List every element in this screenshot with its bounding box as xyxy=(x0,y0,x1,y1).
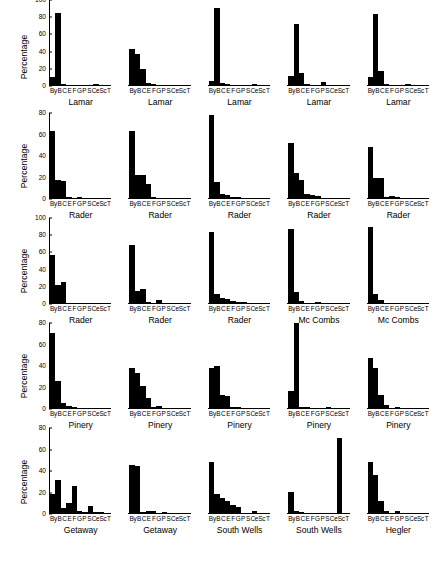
chart-panel: ByBCEFGPSCeScTPinery xyxy=(113,323,192,428)
x-tick-label: Ce xyxy=(330,86,338,95)
axis-area xyxy=(272,218,349,304)
chart-panel: ByBCEFGPSCeScTMc Combs xyxy=(352,218,431,323)
bar xyxy=(315,302,320,303)
bar xyxy=(252,84,257,85)
panel-site-label: Getaway xyxy=(129,525,190,536)
y-tick-label: 40 xyxy=(39,266,46,273)
axis-area xyxy=(272,323,349,409)
bar xyxy=(66,197,71,198)
bar xyxy=(337,438,342,513)
x-tick-label: T xyxy=(186,86,191,95)
x-tick-label: By xyxy=(209,86,216,95)
chart-panel: 020406080ByBCEFGPSCeScTPinery xyxy=(34,323,113,428)
chart-row: Percentage020406080ByBCEFGPSCeScTGetaway… xyxy=(0,428,431,536)
bar xyxy=(288,492,293,513)
chart-panel: ByBCEFGPSCeScTSouth Wells xyxy=(272,428,351,536)
x-tick-label: T xyxy=(424,86,429,95)
chart-panel: ByBCEFGPSCeScTHegler xyxy=(352,428,431,536)
bar xyxy=(72,407,77,408)
axis-area xyxy=(193,113,270,199)
x-tick-label: Sc xyxy=(338,514,345,523)
y-axis-label: Percentage xyxy=(19,34,29,78)
y-tick-label: 0 xyxy=(42,301,46,308)
panel-site-label: Lamar xyxy=(368,97,429,108)
bar-group xyxy=(368,0,427,85)
bar xyxy=(77,197,82,198)
x-tick-label: T xyxy=(345,304,350,313)
x-tick-labels: ByBCEFGPSCeScT xyxy=(288,409,349,420)
y-axis-label: Percentage xyxy=(19,460,29,504)
x-tick-labels: ByBCEFGPSCeScT xyxy=(129,86,190,97)
axis-area xyxy=(352,0,429,86)
chart-panel: ByBCEFGPSCeScTRader xyxy=(113,113,192,218)
chart-panel: 020406080ByBCEFGPSCeScTGetaway xyxy=(34,428,113,536)
y-tick-labels: 020406080 xyxy=(34,428,49,514)
x-tick-label: T xyxy=(345,514,350,523)
x-tick-label: Sc xyxy=(338,86,345,95)
x-tick-label: Sc xyxy=(417,86,424,95)
panel-site-label: South Wells xyxy=(209,525,270,536)
chart-row: Percentage020406080100ByBCEFGPSCeScTRade… xyxy=(0,218,431,323)
plot-area xyxy=(352,218,431,304)
x-tick-label: By xyxy=(129,86,136,95)
x-tick-label: Ce xyxy=(330,304,338,313)
x-tick-label: Sc xyxy=(258,514,265,523)
axis-area xyxy=(113,113,190,199)
x-tick-labels: ByBCEFGPSCeScT xyxy=(50,409,111,420)
axis-area: 020406080 xyxy=(34,113,111,199)
bar-group xyxy=(209,0,268,85)
chart-row: Percentage020406080ByBCEFGPSCeScTRaderBy… xyxy=(0,113,431,218)
bar xyxy=(299,301,304,303)
x-tick-labels: ByBCEFGPSCeScT xyxy=(129,514,190,525)
chart-row: Percentage020406080ByBCEFGPSCeScTPineryB… xyxy=(0,323,431,428)
plot-area xyxy=(352,0,431,86)
chart-panel: ByBCEFGPSCeScTLamar xyxy=(352,0,431,113)
x-tick-labels: ByBCEFGPSCeScT xyxy=(368,514,429,525)
axis-area: 020406080100 xyxy=(34,218,111,304)
panel-site-label: Lamar xyxy=(288,97,349,108)
bar xyxy=(384,511,389,513)
bar-group xyxy=(50,428,109,513)
plot-area xyxy=(193,0,272,86)
y-tick-label: 20 xyxy=(39,66,46,73)
x-tick-label: By xyxy=(50,409,57,418)
x-tick-label: Sc xyxy=(338,409,345,418)
x-tick-label: Ce xyxy=(330,409,338,418)
x-tick-label: T xyxy=(265,304,270,313)
x-tick-labels: ByBCEFGPSCeScT xyxy=(288,199,349,210)
x-tick-labels: ByBCEFGPSCeScT xyxy=(50,304,111,315)
plot-area: 020406080 xyxy=(34,428,113,514)
x-tick-label: T xyxy=(424,199,429,208)
axis-area xyxy=(352,428,429,514)
bar-group xyxy=(129,0,188,85)
axis-area xyxy=(113,323,190,409)
bar xyxy=(304,407,309,408)
panel-site-label: Lamar xyxy=(209,97,270,108)
bar-group xyxy=(129,428,188,513)
plot-area xyxy=(352,428,431,514)
plot-area xyxy=(193,113,272,199)
x-tick-label: By xyxy=(368,86,375,95)
plot-area: 020406080100 xyxy=(34,0,113,86)
plot-area xyxy=(193,428,272,514)
x-tick-labels: ByBCEFGPSCeScT xyxy=(129,409,190,420)
axis-area xyxy=(193,218,270,304)
x-tick-label: Ce xyxy=(409,304,417,313)
x-tick-label: Sc xyxy=(99,199,106,208)
x-tick-label: Sc xyxy=(99,409,106,418)
x-tick-label: By xyxy=(209,199,216,208)
x-tick-labels: ByBCEFGPSCeScT xyxy=(209,514,270,525)
y-tick-labels: 020406080100 xyxy=(34,218,49,304)
x-tick-label: Ce xyxy=(250,304,258,313)
x-tick-label: Sc xyxy=(417,409,424,418)
x-tick-label: By xyxy=(129,304,136,313)
y-axis-label: Percentage xyxy=(19,353,29,397)
x-tick-label: By xyxy=(209,514,216,523)
x-tick-label: T xyxy=(186,304,191,313)
multi-panel-bar-chart-figure: Percentage020406080100ByBCEFGPSCeScTLama… xyxy=(0,0,431,567)
y-tick-labels: 020406080 xyxy=(34,113,49,199)
y-axis-label-wrap: Percentage xyxy=(0,0,34,113)
x-tick-label: Ce xyxy=(171,199,179,208)
bar xyxy=(135,466,140,513)
x-tick-label: Sc xyxy=(99,514,106,523)
